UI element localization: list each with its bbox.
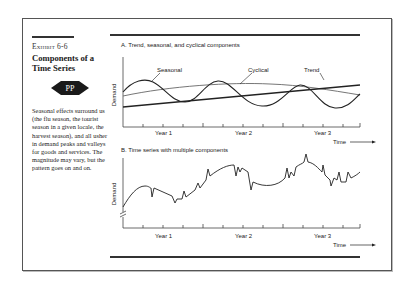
- chart-a-year2: Year 2: [235, 130, 253, 136]
- seasonal-label: Seasonal: [157, 67, 182, 73]
- cyclical-pointer: [240, 73, 252, 84]
- seasonal-pointer: [152, 73, 160, 81]
- chart-a-ylabel: Demand: [111, 84, 117, 107]
- chart-b-ylabel: Demand: [111, 183, 117, 206]
- chart-b-year3: Year 3: [314, 233, 332, 239]
- charts: A. Trend, seasonal, and cyclical compone…: [0, 0, 415, 287]
- trend-pointer: [320, 73, 324, 80]
- chart-a-arrowhead-icon: [372, 141, 376, 144]
- chart-b-title: B. Time series with multiple components: [121, 147, 228, 153]
- chart-a-title: A. Trend, seasonal, and cyclical compone…: [121, 42, 240, 48]
- chart-a-year3: Year 3: [314, 130, 332, 136]
- cyclical-label: Cyclical: [248, 67, 269, 73]
- chart-a-xlabel: Time: [333, 139, 347, 145]
- combined-series-line: [123, 154, 360, 207]
- chart-a-year1: Year 1: [155, 130, 173, 136]
- chart-b-year2: Year 2: [235, 233, 253, 239]
- chart-b-xlabel: Time: [333, 242, 347, 248]
- trend-label: Trend: [304, 67, 319, 73]
- chart-b-arrowhead-icon: [372, 244, 376, 247]
- chart-b-year1: Year 1: [155, 233, 173, 239]
